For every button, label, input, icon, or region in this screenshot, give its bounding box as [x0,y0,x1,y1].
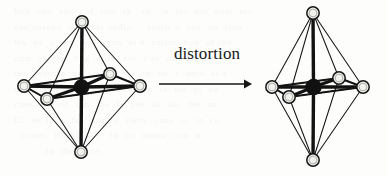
ligand-front [41,93,53,105]
ligand-back [104,68,116,80]
edge-bottom-front [47,99,81,152]
ligand-left [266,81,278,93]
ligand-top [76,16,88,28]
bond-center-top [313,13,314,87]
octahedron-distorted [266,7,369,166]
edge-top-left [272,13,313,87]
ligand-bottom [75,146,87,158]
bond-center-left [24,86,82,87]
edge-bottom-right [313,87,363,160]
distortion-arrow [159,80,252,89]
central-atom [74,80,89,95]
bond-center-bottom [313,87,314,160]
ligand-right [357,81,369,93]
ligand-top [307,7,319,19]
edge-bottom-right [81,86,140,152]
ligand-left [18,80,30,92]
arrow-head-icon [244,80,252,89]
octahedron-regular [18,16,146,158]
ligand-front [283,91,295,103]
figure-canvas: bon con anc col iom th ce in ter not nam… [0,0,387,176]
ligand-right [134,80,146,92]
octahedral-distortion-diagram [0,0,387,176]
ligand-bottom [307,154,319,166]
edge-top-left [24,22,82,86]
central-atom [306,79,322,95]
bond-center-bottom [81,87,82,152]
ligand-back [333,72,345,84]
edge-bottom-front [289,97,313,160]
distortion-label: distortion [155,44,259,64]
